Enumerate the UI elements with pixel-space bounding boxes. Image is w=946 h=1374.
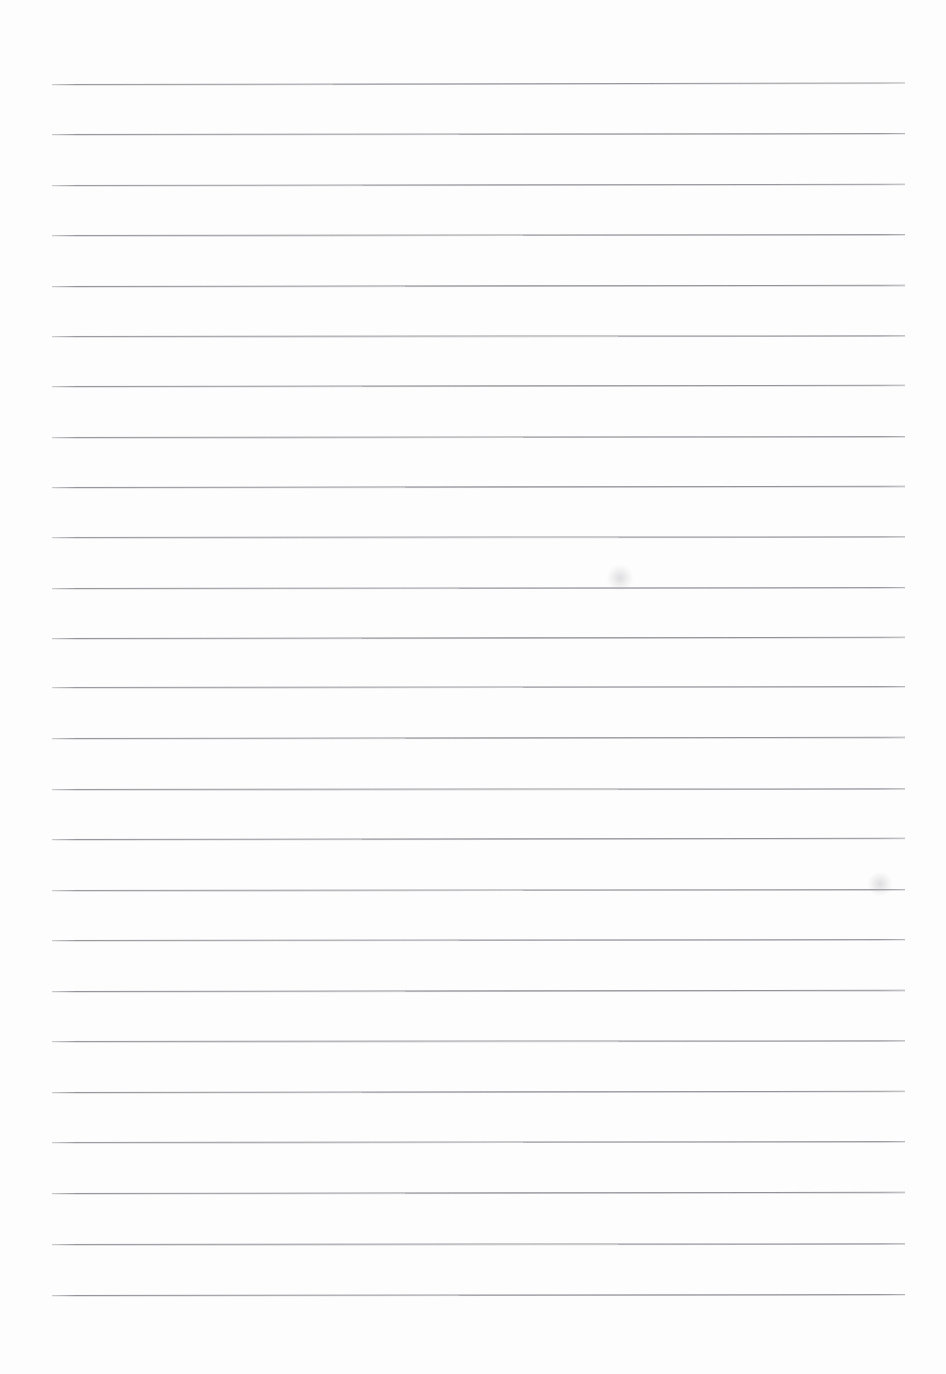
ruled-line	[52, 737, 905, 739]
ruled-line	[52, 788, 905, 790]
ruled-line	[52, 686, 905, 688]
lined-paper-page	[0, 0, 946, 1374]
ruled-line	[52, 536, 905, 538]
ruled-line	[52, 1040, 905, 1042]
ruled-line	[52, 184, 905, 186]
ruled-line	[52, 436, 905, 438]
ruled-line	[52, 1141, 905, 1143]
ruled-line	[52, 285, 905, 287]
ruled-line	[52, 990, 905, 992]
ruled-line	[52, 939, 905, 941]
ruled-line	[52, 83, 905, 85]
ruled-line	[52, 838, 905, 840]
ruled-line	[52, 385, 905, 387]
ruled-line	[52, 1294, 905, 1296]
ruled-line	[52, 234, 905, 236]
ruled-line	[52, 335, 905, 337]
ruled-lines-layer	[0, 0, 946, 1374]
ruled-line	[52, 1243, 905, 1245]
ruled-line	[52, 133, 905, 135]
ruled-line	[52, 889, 905, 891]
ruled-line	[52, 486, 905, 488]
ruled-line	[52, 1091, 905, 1093]
ruled-line	[52, 587, 905, 589]
ruled-line	[52, 1192, 905, 1194]
ruled-line	[52, 637, 905, 639]
